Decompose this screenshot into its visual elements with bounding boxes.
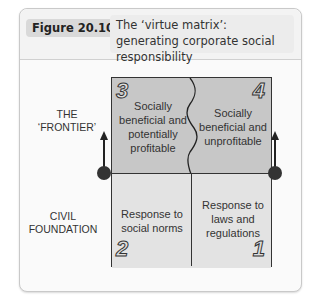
quadrant-text-line: beneficial and [195,120,271,134]
civil-foundation-label: CIVIL FOUNDATION [18,210,108,236]
civil-label-line: FOUNDATION [18,223,108,236]
quadrant-text-line: Socially [116,99,190,113]
figure-label: Figure 20.10 [26,19,120,37]
quadrant-number-1: 1 [253,236,265,262]
left-pivot-dot-icon [97,166,111,180]
quadrant-number-2: 2 [116,236,128,262]
quadrant-text-line: Response to [194,198,272,212]
quadrant-text-line: Socially [195,106,271,120]
right-pivot-dot-icon [268,166,282,180]
civil-label-line: CIVIL [18,210,108,223]
quadrant-3-text: Socially beneficial and potentially prof… [116,99,190,155]
frontier-label: THE ‘FRONTIER’ [30,108,104,134]
frontier-label-line: THE [30,108,104,121]
quadrant-text-line: beneficial and [116,113,190,127]
quadrant-text-line: unprofitable [195,134,271,148]
quadrant-2-text: Response to social norms [114,207,190,235]
frontier-label-line: ‘FRONTIER’ [30,121,104,134]
vertical-divider [191,173,192,266]
quadrant-1-text: Response to laws and regulations [194,198,272,240]
quadrant-text-line: social norms [114,221,190,235]
figure-header: Figure 20.10 The ‘virtue matrix’: genera… [20,9,301,60]
quadrant-text-line: Response to [114,207,190,221]
quadrant-text-line: laws and [194,212,272,226]
virtue-matrix-grid: 3 Socially beneficial and potentially pr… [111,77,272,267]
quadrant-4-text: Socially beneficial and unprofitable [195,106,271,148]
quadrant-text-line: potentially [116,127,190,141]
figure-title: The ‘virtue matrix’: generating corporat… [110,15,294,53]
quadrant-number-4: 4 [253,78,265,104]
quadrant-text-line: profitable [116,141,190,155]
